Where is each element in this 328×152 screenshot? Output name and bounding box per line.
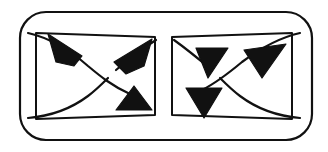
diagram-svg [0, 0, 328, 152]
diagram-canvas: Braid-like strand diagram with arrowhead… [0, 0, 328, 152]
diagram-background [0, 0, 328, 152]
